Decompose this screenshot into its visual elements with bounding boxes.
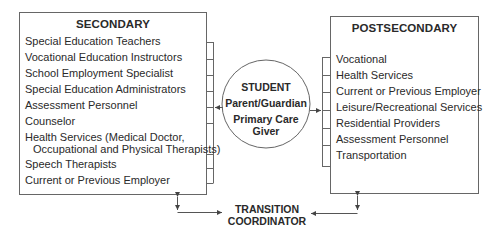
postsecondary-item: Vocational [336,53,387,66]
secondary-item: Counselor [25,115,75,128]
transition-label: TRANSITION [212,203,322,215]
secondary-title: SECONDARY [19,18,207,30]
postsecondary-title: POSTSECONDARY [330,22,479,34]
postsecondary-bracket [323,57,331,167]
giver-label: Giver [218,125,314,137]
secondary-item: Occupational and Physical Therapists) [33,143,221,156]
primary-care-label: Primary Care [218,113,314,125]
coordinator-label: COORDINATOR [212,215,322,227]
secondary-bracket [206,42,214,184]
secondary-item: Current or Previous Employer [25,174,170,187]
transition-diagram: SECONDARY Special Education Teachers Voc… [0,0,496,233]
postsecondary-item: Assessment Personnel [336,133,449,146]
secondary-item: Vocational Education Instructors [25,51,182,64]
postsecondary-item: Residential Providers [336,117,440,130]
postsecondary-item: Transportation [336,149,407,162]
secondary-item: Speech Therapists [25,158,117,171]
postsecondary-item: Health Services [336,69,413,82]
postsecondary-item: Current or Previous Employer [336,85,481,98]
secondary-item: Assessment Personnel [25,99,138,112]
student-label: STUDENT [218,81,314,93]
secondary-item: Special Education Administrators [25,83,186,96]
secondary-item: School Employment Specialist [25,67,173,80]
postsecondary-item: Leisure/Recreational Services [336,101,482,114]
secondary-item: Special Education Teachers [25,35,161,48]
parent-guardian-label: Parent/Guardian [218,97,314,109]
